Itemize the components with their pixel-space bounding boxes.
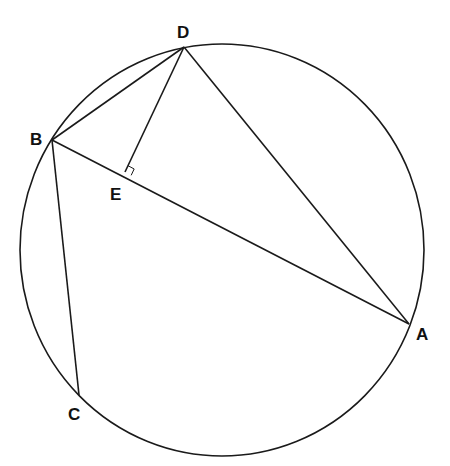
label-b: B [30,130,42,149]
point-labels: A B C D E [30,23,428,424]
right-angle-marker-e [128,166,134,176]
label-d: D [177,23,189,42]
circle [20,44,424,456]
segment-bc [52,140,79,395]
label-a: A [416,325,428,344]
segments [52,47,409,395]
segment-bd [52,47,184,140]
geometry-diagram: A B C D E [0,0,450,466]
label-c: C [68,405,80,424]
segment-da [184,47,409,324]
label-e: E [110,185,121,204]
segment-ba [52,140,409,324]
segment-de [125,47,184,172]
